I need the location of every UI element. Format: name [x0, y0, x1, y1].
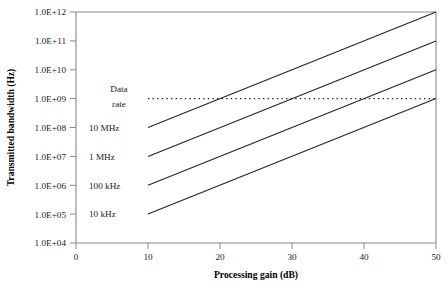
- series-label-10khz: 10 kHz: [89, 209, 116, 219]
- y-tick-label: 1.0E+10: [35, 65, 67, 75]
- chart-background: [0, 0, 448, 292]
- x-tick-label: 50: [431, 252, 441, 262]
- y-tick-label: 1.0E+04: [35, 238, 67, 248]
- series-label-100khz: 100 kHz: [89, 181, 120, 191]
- annotation-rate: rate: [112, 99, 126, 109]
- chart-figure: 1.0E+12 1.0E+11 1.0E+10 1.0E+09 1.0E+08 …: [0, 0, 448, 292]
- y-tick-label: 1.0E+09: [35, 94, 67, 104]
- x-tick-label: 0: [74, 252, 79, 262]
- x-tick-label: 30: [287, 252, 297, 262]
- y-tick-label: 1.0E+08: [35, 123, 67, 133]
- y-tick-label: 1.0E+06: [35, 181, 67, 191]
- transmitted-bandwidth-vs-processing-gain-chart: 1.0E+12 1.0E+11 1.0E+10 1.0E+09 1.0E+08 …: [0, 0, 448, 292]
- x-axis-title: Processing gain (dB): [214, 269, 298, 281]
- y-tick-label: 1.0E+07: [35, 152, 67, 162]
- x-tick-label: 40: [359, 252, 369, 262]
- x-tick-label: 10: [143, 252, 153, 262]
- annotation-data: Data: [110, 84, 127, 94]
- series-label-10mhz: 10 MHz: [89, 123, 119, 133]
- y-tick-label: 1.0E+05: [35, 210, 67, 220]
- y-tick-label: 1.0E+11: [35, 36, 67, 46]
- y-axis-title: Transmitted bandwidth (Hz): [5, 69, 17, 187]
- x-tick-label: 20: [215, 252, 225, 262]
- y-tick-label: 1.0E+12: [35, 7, 67, 17]
- y-axis-tick-labels: 1.0E+12 1.0E+11 1.0E+10 1.0E+09 1.0E+08 …: [35, 7, 67, 248]
- series-label-1mhz: 1 MHz: [89, 152, 115, 162]
